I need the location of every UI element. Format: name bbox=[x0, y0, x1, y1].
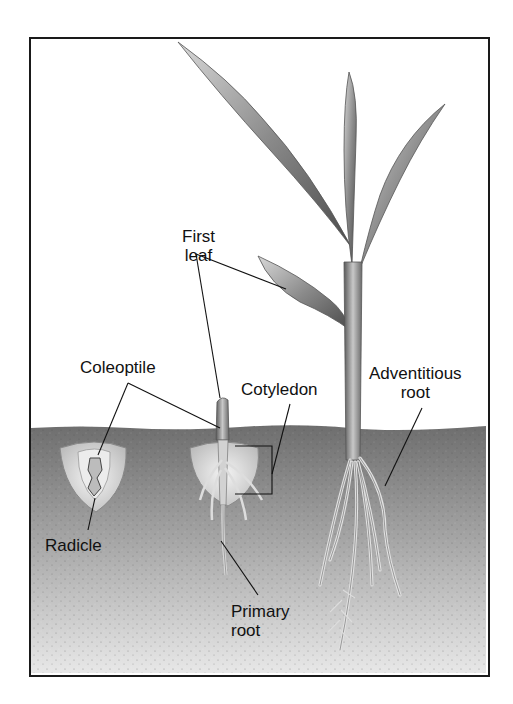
label-first-leaf-line1: First bbox=[182, 227, 215, 246]
seedling-illustration bbox=[0, 0, 513, 704]
label-adventitious-root: Adventitious root bbox=[369, 364, 462, 402]
label-coleoptile: Coleoptile bbox=[80, 358, 156, 377]
label-adventitious-line1: Adventitious bbox=[369, 364, 462, 383]
label-adventitious-line2: root bbox=[369, 383, 462, 402]
label-first-leaf: First leaf bbox=[182, 227, 215, 265]
label-primary-root: Primary root bbox=[231, 602, 290, 640]
label-cotyledon: Cotyledon bbox=[241, 380, 318, 399]
label-primary-line2: root bbox=[231, 621, 290, 640]
label-radicle: Radicle bbox=[45, 536, 102, 555]
label-primary-line1: Primary bbox=[231, 602, 290, 621]
label-first-leaf-line2: leaf bbox=[182, 246, 215, 265]
